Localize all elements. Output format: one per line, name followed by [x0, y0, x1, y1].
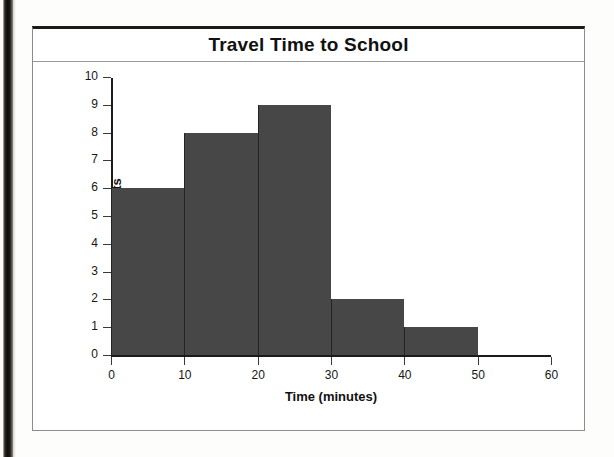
histogram-bar [111, 188, 184, 355]
x-axis-tick: 40 [404, 357, 405, 365]
y-axis-tick-label: 10 [85, 69, 98, 83]
histogram-bar [331, 299, 404, 355]
y-axis-tick: 7 [103, 160, 111, 161]
x-axis-tick: 60 [551, 357, 552, 365]
y-axis-tick-label: 2 [91, 291, 98, 305]
x-axis-tick-label: 50 [471, 368, 484, 382]
y-axis-tick: 0 [103, 355, 111, 356]
x-axis-tick-label: 60 [545, 368, 558, 382]
x-axis-tick: 10 [184, 357, 185, 365]
chart-title-bar: Travel Time to School [33, 29, 584, 62]
page-edge-gradient [13, 0, 16, 457]
y-axis-tick-label: 7 [91, 152, 98, 166]
page-canvas: Travel Time to School Frequency of stude… [0, 0, 614, 457]
page-edge-scan-artifact [3, 0, 13, 457]
y-axis-tick-label: 4 [91, 236, 98, 250]
y-axis-tick: 9 [103, 105, 111, 106]
x-axis-tick-label: 10 [178, 368, 191, 382]
page-title: Travel Time to School [208, 34, 408, 56]
y-axis-tick: 10 [103, 77, 111, 78]
y-axis-tick-label: 5 [91, 208, 98, 222]
chart-frame: Travel Time to School Frequency of stude… [32, 26, 585, 431]
y-axis-tick-label: 6 [91, 180, 98, 194]
histogram-bar [184, 133, 257, 355]
x-axis-tick-label: 40 [398, 368, 411, 382]
y-axis-tick: 5 [103, 216, 111, 217]
y-axis-tick-label: 8 [91, 125, 98, 139]
x-axis-title: Time (minutes) [111, 389, 551, 404]
histogram-bar [404, 327, 477, 355]
y-axis-tick: 6 [103, 188, 111, 189]
histogram-bar [258, 105, 331, 355]
x-axis-tick: 50 [478, 357, 479, 365]
y-axis-tick-label: 9 [91, 97, 98, 111]
y-axis-tick-label: 0 [91, 347, 98, 361]
y-axis-tick: 3 [103, 272, 111, 273]
y-axis-tick: 8 [103, 133, 111, 134]
plot-area: Frequency of students Time (minutes) 012… [33, 62, 584, 433]
x-axis-tick-label: 30 [325, 368, 338, 382]
x-axis-tick-label: 0 [108, 368, 115, 382]
x-axis-tick: 20 [258, 357, 259, 365]
y-axis-tick: 2 [103, 299, 111, 300]
x-axis-tick: 30 [331, 357, 332, 365]
x-axis-tick: 0 [111, 357, 112, 365]
y-axis-tick-label: 1 [91, 319, 98, 333]
y-axis-tick: 4 [103, 244, 111, 245]
y-axis-tick-label: 3 [91, 264, 98, 278]
x-axis-tick-label: 20 [251, 368, 264, 382]
y-axis-tick: 1 [103, 327, 111, 328]
